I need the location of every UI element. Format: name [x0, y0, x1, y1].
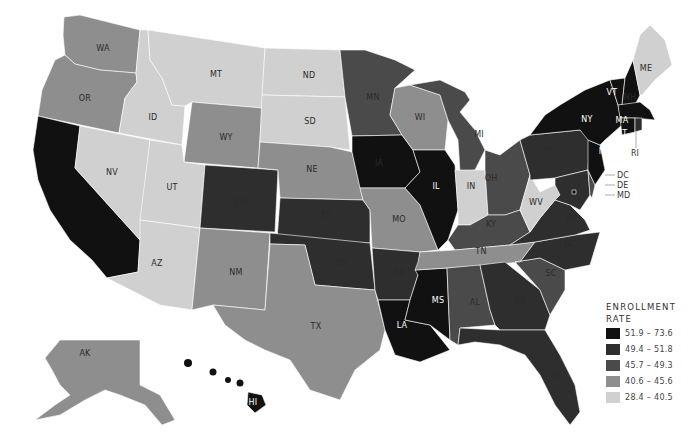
svg-text:RI: RI	[631, 149, 639, 158]
svg-text:ME: ME	[640, 64, 652, 73]
svg-text:ND: ND	[303, 71, 316, 80]
legend-swatch	[606, 328, 620, 339]
state-me[interactable]	[633, 25, 672, 95]
svg-text:MT: MT	[210, 70, 222, 79]
legend-item: 40.6 – 45.6	[606, 373, 698, 389]
legend-range: 28.4 – 40.5	[625, 393, 673, 402]
callouts: RI DC DE MD	[605, 130, 639, 200]
svg-text:NC: NC	[564, 240, 576, 249]
svg-text:CO: CO	[235, 198, 247, 207]
state-in[interactable]	[455, 170, 488, 225]
svg-text:DC: DC	[617, 171, 629, 180]
svg-text:HI: HI	[249, 398, 258, 407]
state-ri[interactable]	[635, 118, 642, 132]
svg-text:IL: IL	[432, 182, 440, 191]
svg-text:LA: LA	[397, 321, 408, 330]
svg-text:AZ: AZ	[151, 259, 163, 268]
svg-text:MI: MI	[474, 130, 484, 139]
svg-text:IN: IN	[467, 182, 476, 191]
legend-swatch	[606, 360, 620, 371]
svg-text:PA: PA	[543, 146, 554, 155]
svg-text:OK: OK	[336, 259, 348, 268]
svg-text:NV: NV	[106, 168, 118, 177]
svg-text:SD: SD	[304, 117, 316, 126]
svg-text:AL: AL	[470, 298, 481, 307]
svg-text:DE: DE	[617, 181, 628, 190]
svg-text:OH: OH	[485, 174, 498, 183]
svg-text:SC: SC	[545, 269, 556, 278]
svg-text:WY: WY	[219, 133, 232, 142]
svg-text:WV: WV	[529, 198, 543, 207]
svg-text:GA: GA	[514, 297, 526, 306]
svg-text:MD: MD	[617, 191, 630, 200]
svg-text:MN: MN	[366, 93, 379, 102]
us-choropleth-map: WA OR ID NV MT WY UT AZ CO NM ND SD NE K…	[0, 0, 698, 445]
svg-text:ID: ID	[149, 113, 158, 122]
svg-text:WI: WI	[415, 113, 426, 122]
svg-text:KY: KY	[486, 220, 496, 229]
svg-text:MS: MS	[432, 296, 444, 305]
svg-text:NM: NM	[229, 268, 242, 277]
legend-swatch	[606, 344, 620, 355]
svg-text:MA: MA	[616, 116, 629, 125]
legend-item: 51.9 – 73.6	[606, 325, 698, 341]
legend-swatch	[606, 376, 620, 387]
legend-range: 49.4 – 51.8	[625, 345, 673, 354]
svg-text:NY: NY	[581, 115, 592, 124]
legend-range: 40.6 – 45.6	[625, 377, 673, 386]
legend: ENROLLMENT RATE 51.9 – 73.6 49.4 – 51.8 …	[606, 301, 698, 405]
svg-text:FL: FL	[552, 371, 562, 380]
svg-text:IA: IA	[375, 159, 384, 168]
state-ak[interactable]	[35, 340, 175, 425]
legend-range: 51.9 – 73.6	[625, 329, 673, 338]
legend-item: 28.4 – 40.5	[606, 389, 698, 405]
svg-text:AK: AK	[79, 349, 91, 358]
svg-text:UT: UT	[166, 183, 177, 192]
legend-item: 49.4 – 51.8	[606, 341, 698, 357]
svg-text:WA: WA	[96, 44, 110, 53]
svg-text:NE: NE	[306, 165, 317, 174]
svg-text:TX: TX	[310, 322, 322, 331]
legend-item: 45.7 – 49.3	[606, 357, 698, 373]
svg-text:CT: CT	[617, 129, 628, 138]
svg-text:TN: TN	[474, 247, 486, 256]
svg-text:NJ: NJ	[599, 147, 608, 156]
svg-text:KS: KS	[321, 210, 332, 219]
svg-text:NH: NH	[624, 93, 636, 102]
legend-range: 45.7 – 49.3	[625, 361, 673, 370]
svg-text:VA: VA	[565, 214, 576, 223]
svg-text:OR: OR	[79, 94, 91, 103]
svg-text:MO: MO	[392, 215, 406, 224]
legend-title: ENROLLMENT RATE	[606, 301, 676, 325]
legend-swatch	[606, 392, 620, 403]
svg-text:VT: VT	[607, 88, 618, 97]
svg-text:AR: AR	[394, 269, 406, 278]
state-dc[interactable]	[572, 190, 576, 194]
